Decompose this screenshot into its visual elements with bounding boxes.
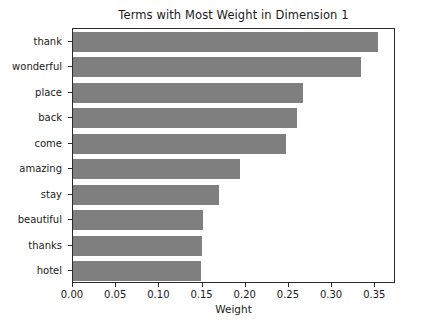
y-axis-tick-label: stay xyxy=(41,188,62,199)
x-axis-tick-label: 0.25 xyxy=(277,289,299,300)
y-axis-tick-label: amazing xyxy=(19,163,62,174)
x-axis-tick-label: 0.00 xyxy=(61,289,83,300)
y-axis-tick-label: thanks xyxy=(28,239,62,250)
x-axis-tick-label: 0.20 xyxy=(234,289,256,300)
bar xyxy=(73,261,201,281)
y-axis-tick-label: place xyxy=(35,86,62,97)
x-axis-label: Weight xyxy=(72,303,395,315)
x-axis-tick-label: 0.10 xyxy=(147,289,169,300)
x-axis-tick-mark xyxy=(288,283,289,287)
x-axis-tick-label: 0.35 xyxy=(363,289,385,300)
x-axis-tick-label: 0.30 xyxy=(320,289,342,300)
bar xyxy=(73,134,286,154)
x-axis-tick-mark xyxy=(331,283,332,287)
x-axis-tick-labels: 0.000.050.100.150.200.250.300.35 xyxy=(72,289,395,303)
bar xyxy=(73,236,202,256)
x-axis-tick-label: 0.15 xyxy=(190,289,212,300)
x-axis-tick-marks xyxy=(72,283,395,288)
y-axis-tick-labels: thankwonderfulplacebackcomeamazingstaybe… xyxy=(0,28,67,283)
bar xyxy=(73,210,203,230)
chart-figure: Terms with Most Weight in Dimension 1 th… xyxy=(0,0,421,324)
y-axis-tick-label: hotel xyxy=(37,265,62,276)
bar xyxy=(73,32,378,52)
x-axis-tick-mark xyxy=(202,283,203,287)
bars-container xyxy=(73,29,394,282)
x-axis-tick-mark xyxy=(245,283,246,287)
x-axis-tick-mark xyxy=(374,283,375,287)
bar xyxy=(73,57,361,77)
plot-area xyxy=(72,28,395,283)
x-axis-tick-mark xyxy=(158,283,159,287)
bar xyxy=(73,185,219,205)
y-axis-tick-label: wonderful xyxy=(12,61,62,72)
y-axis-tick-label: thank xyxy=(33,35,62,46)
bar xyxy=(73,83,303,103)
x-axis-tick-mark xyxy=(72,283,73,287)
x-axis-tick-mark xyxy=(115,283,116,287)
y-axis-tick-label: come xyxy=(34,137,62,148)
bar xyxy=(73,108,297,128)
bar xyxy=(73,159,240,179)
y-axis-tick-label: back xyxy=(38,112,62,123)
chart-title: Terms with Most Weight in Dimension 1 xyxy=(72,8,395,22)
x-axis-tick-label: 0.05 xyxy=(104,289,126,300)
y-axis-tick-label: beautiful xyxy=(18,214,62,225)
